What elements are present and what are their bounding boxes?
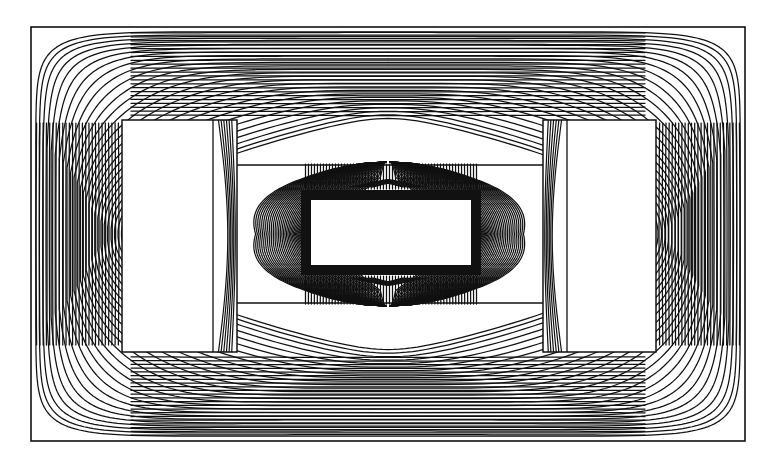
flux-contour-left-leg-line	[118, 123, 119, 345]
flux-contour-left-leg-line	[115, 123, 116, 345]
flux-contour-right-leg-line	[736, 123, 737, 345]
flux-contour-left-leg-line	[39, 123, 40, 345]
flux-field-svg	[0, 0, 781, 463]
flux-contour-right-leg-line	[662, 123, 663, 345]
flux-contour-left-leg-line	[36, 123, 37, 345]
flux-contour-right-leg-line	[739, 123, 740, 345]
flux-contour-right-leg-line	[659, 123, 660, 345]
centre-core-window	[311, 200, 471, 265]
right-window-mask	[543, 120, 656, 352]
flux-contour-figure	[0, 0, 781, 463]
left-window-mask	[122, 120, 237, 352]
